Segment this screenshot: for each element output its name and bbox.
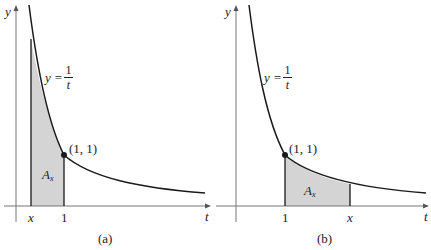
tick-label-1-b: 1 [282, 211, 289, 224]
y-axis-arrow-a [14, 5, 19, 11]
caption-b: (b) [317, 232, 332, 245]
curve-equation-a: y = [45, 71, 63, 84]
fraction-numerator: 1 [285, 64, 291, 76]
caption-a: (a) [98, 232, 112, 245]
tick-label-1-a: 1 [61, 211, 68, 224]
area-label-b: Ax [304, 184, 316, 199]
area-subscript: x [50, 174, 54, 183]
y-axis-label-a: y [5, 5, 11, 18]
fraction-numerator: 1 [66, 64, 72, 76]
curve-b [249, 5, 426, 193]
area-label-text: A [304, 183, 312, 198]
panel-b-graph [216, 5, 429, 222]
area-label-a: Ax [42, 168, 54, 183]
fraction-denominator: t [286, 79, 289, 91]
t-axis-arrow-a [205, 204, 211, 209]
point-label-b: (1, 1) [289, 142, 317, 155]
y-axis-label-b: y [225, 5, 231, 18]
area-label-text: A [42, 167, 50, 182]
fraction-denominator: t [67, 79, 70, 91]
point-1-1-b [282, 152, 288, 158]
curve-fraction-b: 1 t [283, 64, 292, 91]
curve-fraction-a: 1 t [64, 64, 73, 91]
point-1-1-a [61, 152, 67, 158]
t-axis-arrow-b [423, 204, 429, 209]
tick-label-x-a: x [28, 211, 34, 224]
tick-label-x-b: x [347, 211, 353, 224]
t-axis-label-b: t [424, 210, 428, 223]
curve-equation-b: y = [264, 71, 282, 84]
t-axis-label-a: t [205, 210, 209, 223]
y-axis-arrow-b [234, 5, 239, 11]
point-label-a: (1, 1) [69, 142, 97, 155]
area-subscript: x [312, 190, 316, 199]
panel-a-graph [4, 5, 211, 222]
